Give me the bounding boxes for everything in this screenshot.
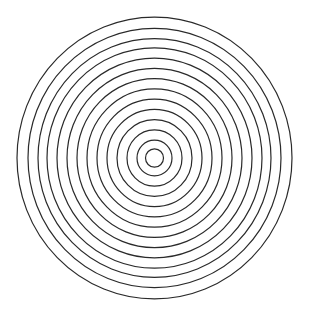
concentric-rings-diagram: [0, 0, 309, 318]
